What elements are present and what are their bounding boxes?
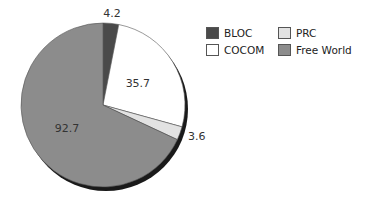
legend-item-bloc: BLOC [206, 27, 252, 39]
slice-label-free-world: 92.7 [55, 122, 80, 135]
legend-item-cocom: COCOM [206, 44, 264, 56]
legend-label-bloc: BLOC [224, 27, 252, 39]
legend-swatch-free-world [278, 44, 291, 56]
legend-swatch-prc [278, 27, 291, 39]
legend-swatch-cocom [206, 44, 219, 56]
legend-label-prc: PRC [296, 27, 316, 39]
legend-item-free-world: Free World [278, 44, 352, 56]
pie-chart: 4.235.73.692.7 [0, 0, 373, 198]
legend-swatch-bloc [206, 27, 219, 39]
slice-label-cocom: 35.7 [126, 77, 151, 90]
legend-item-prc: PRC [278, 27, 316, 39]
legend-label-free-world: Free World [296, 44, 352, 56]
slice-label-prc: 3.6 [188, 130, 206, 143]
slice-label-bloc: 4.2 [103, 7, 121, 20]
legend-label-cocom: COCOM [224, 44, 264, 56]
